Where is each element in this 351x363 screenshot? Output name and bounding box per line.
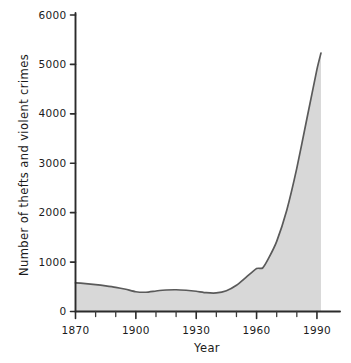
x-axis: 18701900193019601990 [62, 312, 340, 336]
x-axis-tick-labels: 18701900193019601990 [62, 324, 331, 336]
y-tick-label: 2000 [39, 206, 67, 218]
x-tick-label: 1900 [122, 324, 150, 336]
y-axis-tick-labels: 0100020003000400050006000 [39, 9, 67, 318]
x-tick-label: 1930 [182, 324, 210, 336]
series-area-fill [76, 53, 321, 311]
plot-area [76, 53, 321, 311]
x-tick-label: 1990 [303, 324, 331, 336]
x-axis-ticks [76, 312, 317, 319]
x-tick-label: 1960 [243, 324, 271, 336]
crime-area-chart: 0100020003000400050006000 18701900193019… [0, 0, 351, 363]
y-axis-title: Number of thefts and violent crimes [17, 54, 31, 276]
y-tick-label: 0 [60, 305, 67, 317]
y-tick-label: 3000 [39, 157, 67, 169]
y-tick-label: 5000 [39, 58, 67, 70]
x-tick-label: 1870 [62, 324, 90, 336]
y-axis: 0100020003000400050006000 [39, 9, 76, 318]
y-tick-label: 1000 [39, 256, 67, 268]
y-tick-label: 6000 [39, 9, 67, 21]
chart-canvas: 0100020003000400050006000 18701900193019… [0, 0, 351, 363]
x-axis-title: Year [193, 341, 220, 355]
y-tick-label: 4000 [39, 107, 67, 119]
